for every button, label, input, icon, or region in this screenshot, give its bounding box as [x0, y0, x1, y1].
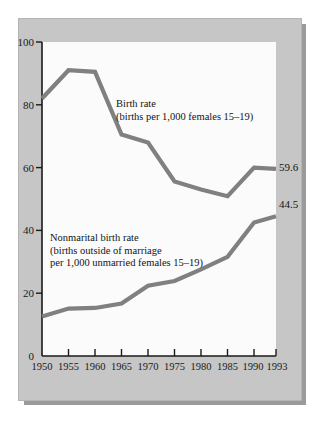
- y-tick-label-60: 60: [12, 162, 34, 174]
- x-axis-ticks: [69, 349, 277, 356]
- y-tick-label-40: 40: [12, 224, 34, 236]
- annotation-nonmarital-birth-rate: Nonmarital birth rate (births outside of…: [50, 232, 203, 270]
- annotation-birth-rate: Birth rate (births per 1,000 females 15–…: [116, 98, 253, 123]
- x-tick-label-1965: 1965: [108, 361, 136, 372]
- end-label-birth-rate: 59.6: [279, 161, 298, 173]
- x-tick-label-1970: 1970: [134, 361, 162, 372]
- annotation-nonmarital-line-2: (births outside of marriage: [50, 245, 203, 258]
- x-tick-label-1960: 1960: [81, 361, 109, 372]
- annotation-birth-rate-line-2: (births per 1,000 females 15–19): [116, 111, 253, 124]
- annotation-nonmarital-line-3: per 1,000 unmarried females 15–19): [50, 257, 203, 270]
- y-tick-label-20: 20: [12, 287, 34, 299]
- x-tick-label-1975: 1975: [161, 361, 189, 372]
- y-tick-label-100: 100: [12, 36, 34, 48]
- y-tick-label-80: 80: [12, 99, 34, 111]
- series-line-birth-rate: [42, 70, 276, 196]
- x-tick-label-1955: 1955: [55, 361, 83, 372]
- y-axis-ticks: [36, 42, 42, 293]
- x-tick-label-1950: 1950: [28, 361, 56, 372]
- x-tick-label-1993: 1993: [263, 361, 291, 372]
- x-tick-label-1980: 1980: [187, 361, 215, 372]
- chart-plot: [0, 0, 322, 421]
- x-tick-label-1985: 1985: [214, 361, 242, 372]
- end-label-nonmarital-birth-rate: 44.5: [279, 198, 298, 210]
- annotation-nonmarital-line-1: Nonmarital birth rate: [50, 232, 203, 245]
- annotation-birth-rate-line-1: Birth rate: [116, 98, 253, 111]
- chart-figure: 100 80 60 40 20 0 1950 1955 1960 1965 19…: [0, 0, 322, 421]
